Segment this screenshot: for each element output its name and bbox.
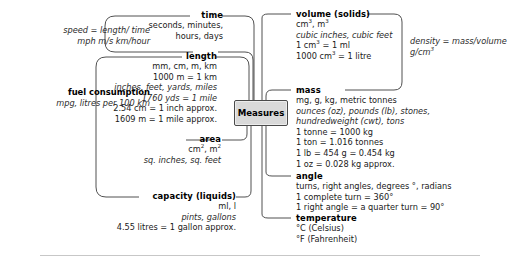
branch-mass-title: mass xyxy=(296,85,461,95)
branch-mass-line-3: hundredweight (cwt), tons xyxy=(296,116,461,127)
branch-volume[interactable]: volume (solids) cm3, m3 cubic inches, cu… xyxy=(296,9,446,61)
branch-time[interactable]: time seconds, minutes, hours, days xyxy=(96,10,223,41)
branch-length-line-6: 1609 m = 1 mile approx. xyxy=(56,114,217,125)
branch-length-title: length xyxy=(56,51,217,61)
angle-to-hub xyxy=(266,124,291,176)
branch-area[interactable]: area cm2, m2 sq. inches, sq. feet xyxy=(96,134,221,165)
branch-mass-line-1: mg, g, kg, metric tonnes xyxy=(296,95,461,106)
branch-mass-line-2: ounces (oz), pounds (lb), stones, xyxy=(296,106,461,117)
branch-area-line-2: sq. inches, sq. feet xyxy=(96,155,221,166)
branch-temperature-title: temperature xyxy=(296,213,446,223)
branch-time-line-1: seconds, minutes, xyxy=(96,20,223,31)
branch-volume-line-1: cm3, m3 xyxy=(296,19,446,30)
branch-length[interactable]: length mm, cm, m, km 1000 m = 1 km inche… xyxy=(56,51,217,125)
length-to-hub xyxy=(216,57,249,100)
mass-to-hub xyxy=(266,90,291,100)
branch-angle-line-3: 1 right angle = a quarter turn = 90° xyxy=(296,202,486,213)
measures-hub[interactable]: Measures xyxy=(234,100,288,126)
branch-angle-line-1: turns, right angles, degrees °, radians xyxy=(296,181,486,192)
branch-angle-line-2: 1 complete turn = 360° xyxy=(296,192,486,203)
branch-capacity-line-2: pints, gallons xyxy=(40,212,236,223)
branch-volume-line-4: 1000 cm3 = 1 litre xyxy=(296,51,446,62)
area-link xyxy=(222,124,247,140)
footer-rule xyxy=(40,255,480,256)
time-to-hub xyxy=(222,16,254,100)
time-lower-link xyxy=(218,52,253,100)
branch-mass-line-6: 1 lb = 454 g = 0.454 kg xyxy=(296,148,461,159)
branch-time-title: time xyxy=(96,10,223,20)
branch-volume-line-3: 1 cm3 = 1 ml xyxy=(296,40,446,51)
branch-length-line-3: inches, feet, yards, miles xyxy=(56,82,217,93)
branch-capacity[interactable]: capacity (liquids) ml, l pints, gallons … xyxy=(40,191,236,233)
branch-mass-line-5: 1 ton = 1.016 tonnes xyxy=(296,137,461,148)
branch-angle[interactable]: angle turns, right angles, degrees °, ra… xyxy=(296,171,486,213)
diagram-canvas: Measures speed = length/ time mph m/s km… xyxy=(0,0,519,273)
measures-label: Measures xyxy=(238,108,285,118)
branch-capacity-line-1: ml, l xyxy=(40,201,236,212)
temperature-to-hub xyxy=(262,124,291,218)
branch-length-line-5: 2.54 cm = 1 inch approx. xyxy=(56,103,217,114)
branch-temperature[interactable]: temperature °C (Celsius) °F (Fahrenheit) xyxy=(296,213,446,244)
branch-capacity-line-3: 4.55 litres = 1 gallon approx. xyxy=(40,222,236,233)
capacity-to-hub xyxy=(236,124,251,197)
branch-length-line-1: mm, cm, m, km xyxy=(56,61,217,72)
volume-to-hub xyxy=(262,14,291,100)
branch-volume-title: volume (solids) xyxy=(296,9,446,19)
branch-capacity-title: capacity (liquids) xyxy=(40,191,236,201)
branch-mass-line-4: 1 tonne = 1000 kg xyxy=(296,127,461,138)
branch-length-line-2: 1000 m = 1 km xyxy=(56,72,217,83)
branch-length-line-4: 1760 yds = 1 mile xyxy=(56,93,217,104)
branch-temperature-line-2: °F (Fahrenheit) xyxy=(296,234,446,245)
branch-mass-line-7: 1 oz = 0.028 kg approx. xyxy=(296,159,461,170)
branch-angle-title: angle xyxy=(296,171,486,181)
branch-time-line-2: hours, days xyxy=(96,31,223,42)
branch-mass[interactable]: mass mg, g, kg, metric tonnes ounces (oz… xyxy=(296,85,461,169)
branch-area-line-1: cm2, m2 xyxy=(96,144,221,155)
branch-temperature-line-1: °C (Celsius) xyxy=(296,223,446,234)
